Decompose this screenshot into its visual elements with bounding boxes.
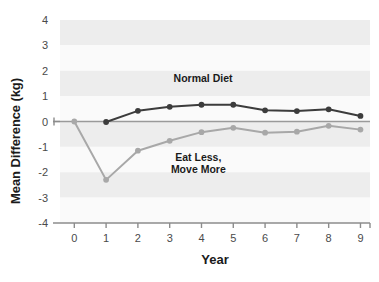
x-tick-label: 0 bbox=[71, 232, 77, 244]
data-point bbox=[230, 102, 236, 108]
data-point bbox=[135, 108, 141, 114]
x-tick-label: 9 bbox=[357, 232, 363, 244]
grid-band bbox=[60, 172, 370, 197]
x-tick-label: 2 bbox=[135, 232, 141, 244]
data-point bbox=[262, 107, 268, 113]
grid-band bbox=[60, 198, 370, 223]
data-point bbox=[294, 129, 300, 135]
chart-container: Mean Difference (kg) Year 43210-1-2-3-40… bbox=[0, 0, 379, 282]
y-tick-label: 3 bbox=[42, 39, 48, 51]
y-tick-label: 1 bbox=[42, 90, 48, 102]
data-point bbox=[199, 102, 205, 108]
data-point bbox=[167, 104, 173, 110]
grid-band bbox=[60, 20, 370, 45]
line-chart-plot: 43210-1-2-3-40123456789Normal DietEat Le… bbox=[0, 0, 379, 282]
y-tick-label: 0 bbox=[42, 116, 48, 128]
data-point bbox=[326, 106, 332, 112]
data-point bbox=[135, 148, 141, 154]
x-tick-label: 1 bbox=[103, 232, 109, 244]
y-tick-label: -1 bbox=[38, 141, 48, 153]
data-point bbox=[199, 129, 205, 135]
y-tick-label: -3 bbox=[38, 192, 48, 204]
y-tick-label: -2 bbox=[38, 166, 48, 178]
x-tick-label: 7 bbox=[294, 232, 300, 244]
data-point bbox=[358, 113, 364, 119]
series-label-eat-less-move-more: Eat Less, bbox=[175, 151, 221, 163]
x-tick-label: 3 bbox=[167, 232, 173, 244]
data-point bbox=[103, 177, 109, 183]
x-tick-label: 4 bbox=[198, 232, 204, 244]
x-tick-label: 5 bbox=[230, 232, 236, 244]
series-label-eat-less-move-more-line2: Move More bbox=[171, 163, 226, 175]
data-point bbox=[326, 123, 332, 129]
grid-band bbox=[60, 122, 370, 147]
grid-band bbox=[60, 45, 370, 70]
data-point bbox=[358, 127, 364, 133]
series-label-normal-diet: Normal Diet bbox=[174, 72, 233, 84]
y-tick-label: 2 bbox=[42, 65, 48, 77]
data-point bbox=[262, 130, 268, 136]
x-tick-label: 8 bbox=[326, 232, 332, 244]
data-point bbox=[71, 119, 77, 125]
data-point bbox=[294, 108, 300, 114]
x-tick-label: 6 bbox=[262, 232, 268, 244]
x-axis: 0123456789 bbox=[53, 223, 370, 244]
y-tick-label: 4 bbox=[42, 14, 48, 26]
y-tick-label: -4 bbox=[38, 217, 48, 229]
data-point bbox=[230, 125, 236, 131]
y-axis: 43210-1-2-3-4 bbox=[38, 14, 60, 229]
data-point bbox=[167, 138, 173, 144]
data-point bbox=[103, 119, 109, 125]
